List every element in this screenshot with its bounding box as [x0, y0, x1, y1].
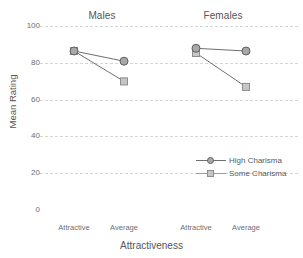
x-tick-males-attractive: Attractive — [47, 223, 101, 232]
line-females-high-charisma — [196, 48, 246, 51]
marker-males-average-high-charisma — [120, 57, 128, 65]
chart-container: Males Females 100 80 60 40 20 0 Mean Rat… — [0, 0, 303, 258]
x-axis-label: Attractiveness — [0, 240, 303, 251]
legend-item-some-charisma: Some Charisma — [196, 167, 300, 180]
legend-item-high-charisma: High Charisma — [196, 154, 300, 167]
x-tick-females-average: Average — [219, 223, 273, 232]
legend-label-high-charisma: High Charisma — [226, 156, 282, 165]
marker-males-attractive-high-charisma — [70, 47, 78, 55]
chart-legend: High Charisma Some Charisma — [196, 154, 300, 180]
line-males-some-charisma — [74, 51, 124, 81]
legend-square-marker-icon — [196, 167, 226, 180]
marker-females-average-high-charisma — [242, 47, 250, 55]
plot-area — [0, 0, 303, 258]
x-tick-females-attractive: Attractive — [169, 223, 223, 232]
legend-circle-marker-icon — [196, 154, 226, 167]
x-tick-males-average: Average — [97, 223, 151, 232]
legend-label-some-charisma: Some Charisma — [226, 169, 286, 178]
marker-females-average-some-charisma — [243, 83, 250, 90]
line-females-some-charisma — [196, 53, 246, 87]
marker-females-attractive-high-charisma — [192, 44, 200, 52]
marker-males-average-some-charisma — [121, 78, 128, 85]
